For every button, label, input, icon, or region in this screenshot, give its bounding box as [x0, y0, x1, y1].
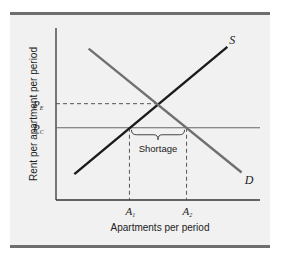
annotations: PEPCA1A2SDShortage — [32, 33, 254, 218]
price-label-subscript: C — [40, 129, 45, 135]
price-label-subscript: E — [39, 105, 44, 111]
axes — [56, 28, 260, 200]
quantity-label-subscript: 1 — [132, 212, 135, 218]
quantity-label-a1: A1 — [124, 205, 135, 218]
quantity-label-subscript: 2 — [189, 212, 192, 218]
shortage-label: Shortage — [139, 143, 178, 154]
y-axis-label: Rent per apartment per period — [28, 47, 39, 181]
curve-d — [89, 49, 242, 173]
curves — [74, 47, 241, 174]
shortage-brace — [131, 130, 184, 140]
curve-label-s: S — [229, 33, 235, 47]
curve-label-d: D — [244, 173, 254, 187]
x-axis-label: Apartments per period — [111, 222, 210, 233]
quantity-label-a2: A2 — [182, 205, 193, 218]
curve-s — [74, 47, 227, 174]
chart-svg: PEPCA1A2SDShortage Rent per apartment pe… — [0, 0, 285, 258]
